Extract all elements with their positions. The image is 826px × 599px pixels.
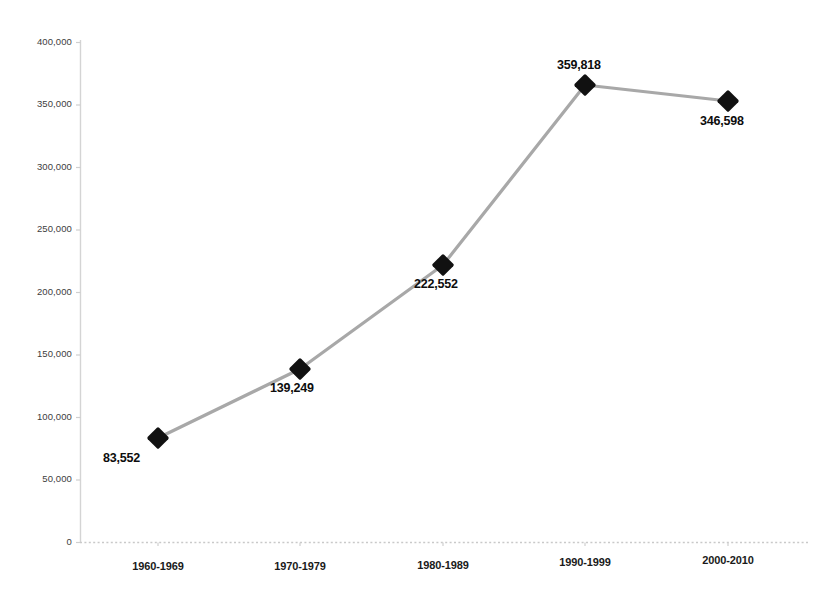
y-tick-label-100000: 100,000 — [0, 412, 72, 422]
y-tick-label-150000: 150,000 — [0, 349, 72, 359]
y-tick-label-250000: 250,000 — [0, 224, 72, 234]
data-label-1960-1969: 83,552 — [103, 452, 140, 465]
x-tick-label-1960-1969: 1960-1969 — [88, 560, 228, 572]
y-tick-label-0: 0 — [0, 537, 72, 547]
chart-plot-area — [0, 0, 826, 599]
y-tick-label-350000: 350,000 — [0, 99, 72, 109]
x-tick-label-1990-1999: 1990-1999 — [515, 556, 655, 568]
y-tick-label-50000: 50,000 — [0, 474, 72, 484]
data-markers — [147, 74, 740, 450]
data-label-1970-1979: 139,249 — [270, 382, 314, 395]
y-tick-label-400000: 400,000 — [0, 37, 72, 47]
data-label-1980-1989: 222,552 — [414, 278, 458, 291]
y-tick-label-300000: 300,000 — [0, 162, 72, 172]
x-tick-label-1970-1979: 1970-1979 — [230, 560, 370, 572]
data-label-2000-2010: 346,598 — [700, 115, 744, 128]
y-tick-label-200000: 200,000 — [0, 287, 72, 297]
data-label-1990-1999: 359,818 — [557, 59, 601, 72]
line-chart: 400,000 350,000 300,000 250,000 200,000 … — [0, 0, 826, 599]
x-tick-label-1980-1989: 1980-1989 — [373, 559, 513, 571]
data-marker — [289, 358, 312, 381]
data-marker — [717, 90, 740, 113]
x-tick-label-2000-2010: 2000-2010 — [658, 554, 798, 566]
data-marker — [147, 427, 170, 450]
